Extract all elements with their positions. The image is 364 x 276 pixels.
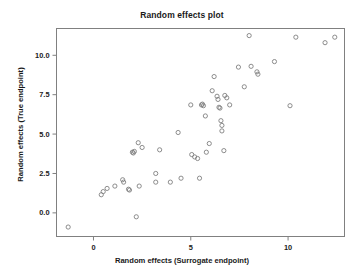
y-tick-label: 7.5 [39,90,49,99]
data-point [272,59,276,63]
data-point [137,184,141,188]
data-point [203,114,207,118]
data-point [333,35,337,39]
data-point [189,103,193,107]
data-point [294,35,298,39]
data-point [220,129,224,133]
data-point [247,33,251,37]
data-point [176,130,180,134]
plot-canvas: 05100.02.55.07.510.0 [0,0,364,276]
y-tick-label: 10.0 [35,51,49,60]
data-point [158,148,162,152]
data-point [219,119,223,123]
data-point [228,103,232,107]
plot-frame [57,29,345,237]
data-point [212,74,216,78]
tick-labels-layer: 05100.02.55.07.510.0 [35,51,292,252]
axes-layer [57,29,345,237]
y-tick-label: 2.5 [39,169,49,178]
data-point [288,104,292,108]
data-point [154,180,158,184]
x-tick-label: 0 [91,243,95,252]
y-tick-label: 5.0 [39,130,49,139]
data-point [210,89,214,93]
data-point [134,215,138,219]
data-point [168,180,172,184]
data-point [220,123,224,127]
data-point [207,141,211,145]
data-point [197,176,201,180]
data-point [105,186,109,190]
x-axis-label: Random effects (Surrogate endpoint) [0,256,364,265]
x-tick-label: 5 [189,243,193,252]
data-point [236,65,240,69]
data-point [222,149,226,153]
data-point [249,64,253,68]
data-point [140,145,144,149]
data-point [113,184,117,188]
x-tick-label: 10 [284,243,292,252]
tick-marks-layer [53,55,289,240]
y-tick-label: 0.0 [39,208,49,217]
data-point [136,141,140,145]
data-point [323,41,327,45]
data-point [101,189,105,193]
y-axis-label: Random effects (True endpoint) [16,45,25,205]
random-effects-scatter-figure: Random effects plot 05100.02.55.07.510.0… [0,0,364,276]
data-point [154,171,158,175]
data-point [204,150,208,154]
data-point [242,85,246,89]
data-point [179,176,183,180]
data-points-layer [66,33,337,229]
data-point [66,225,70,229]
